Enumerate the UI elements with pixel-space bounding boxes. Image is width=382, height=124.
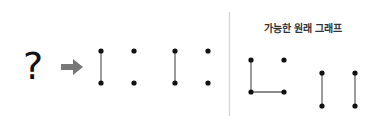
graph-node	[319, 103, 324, 108]
result-graph-2	[172, 48, 210, 85]
result-graph-1	[98, 48, 136, 85]
right-arrow-icon	[61, 59, 83, 75]
graph-node	[205, 48, 210, 53]
graph-canvas	[0, 0, 382, 124]
graph-node	[281, 57, 286, 62]
graph-node	[98, 80, 103, 85]
graph-node	[131, 80, 136, 85]
graphs	[98, 48, 357, 108]
graph-node	[248, 89, 253, 94]
graph-node	[248, 57, 253, 62]
graph-node	[131, 48, 136, 53]
graph-node	[352, 70, 357, 75]
graph-node	[319, 70, 324, 75]
graph-node	[98, 48, 103, 53]
graph-node	[205, 80, 210, 85]
diagram: ? 가능한 원래 그래프	[0, 0, 382, 124]
possible-graph-2	[319, 70, 357, 108]
possible-graph-1	[248, 57, 286, 94]
graph-node	[172, 48, 177, 53]
graph-node	[281, 89, 286, 94]
graph-node	[352, 103, 357, 108]
graph-node	[172, 80, 177, 85]
